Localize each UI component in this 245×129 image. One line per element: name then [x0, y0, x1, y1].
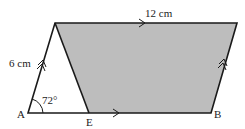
angle-label: 72°: [42, 94, 57, 106]
point-b-label: B: [214, 108, 221, 120]
side-length-label: 6 cm: [9, 57, 31, 69]
point-e-label: E: [86, 116, 93, 128]
shaded-trapezium: [55, 23, 237, 113]
point-a-label: A: [17, 108, 25, 120]
geometry-diagram: 12 cm 6 cm 72° A E B: [0, 0, 245, 129]
top-length-label: 12 cm: [145, 7, 173, 19]
